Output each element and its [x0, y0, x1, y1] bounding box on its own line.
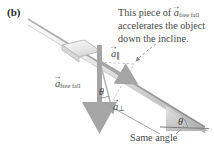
panel-label: (b): [7, 6, 20, 18]
label-a-perpendicular: a⊥: [113, 101, 125, 114]
a-perpendicular-subscript: ⊥: [118, 104, 125, 113]
block-on-incline: [62, 40, 101, 62]
incline-angle-wedge: [160, 106, 209, 131]
label-a-free-fall: afree fall: [55, 78, 81, 90]
callout-line-1: This piece of: [118, 7, 171, 18]
a-free-fall-base: a: [55, 78, 60, 89]
a-free-fall-subscript: free fall: [60, 82, 80, 89]
a-parallel-subscript: ∥: [116, 51, 120, 60]
same-angle-label: Same angle: [130, 132, 177, 143]
angle-label-bottom: θ: [178, 116, 183, 127]
a-parallel-base: a: [111, 48, 116, 59]
callout-vector-symbol: a: [174, 7, 179, 18]
angle-label-top: θ: [99, 86, 104, 97]
figure-panel-b: (b) This piece of afree fall accelerates…: [0, 0, 214, 154]
callout-vector-subscript: free fall: [179, 11, 199, 18]
callout-line-2: accelerates the object: [118, 20, 205, 31]
a-perpendicular-base: a: [113, 101, 118, 112]
label-a-parallel: a∥: [111, 48, 120, 61]
callout-line-3: down the incline.: [118, 33, 188, 44]
callout-text: This piece of afree fall accelerates the…: [118, 6, 205, 45]
